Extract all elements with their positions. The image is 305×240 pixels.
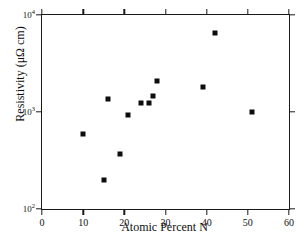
x-axis-tick xyxy=(82,209,83,215)
x-axis-tick xyxy=(206,209,207,215)
data-point xyxy=(147,101,152,106)
data-point xyxy=(155,78,160,83)
x-axis-tick xyxy=(41,209,42,215)
data-points-layer xyxy=(42,15,289,209)
x-axis-tick-top xyxy=(165,9,166,15)
data-point xyxy=(118,151,123,156)
y-axis-tick-label: 102 xyxy=(23,204,35,214)
data-point xyxy=(126,112,131,117)
y-axis-tick-right xyxy=(289,111,295,112)
x-axis-tick xyxy=(124,209,125,215)
data-point xyxy=(101,177,106,182)
data-point xyxy=(200,85,205,90)
x-axis-tick xyxy=(165,209,166,215)
y-axis-tick xyxy=(36,208,42,209)
data-point xyxy=(105,97,110,102)
x-axis-title: Atomic Percent N xyxy=(41,220,288,234)
y-axis-tick-right xyxy=(289,208,295,209)
data-point xyxy=(249,110,254,115)
y-axis-tick-right xyxy=(289,14,295,15)
plot-area: 0102030405060 102103104 xyxy=(41,14,290,210)
data-point xyxy=(212,31,217,36)
data-point xyxy=(81,131,86,136)
y-axis-title: Resistivity (μΩ cm) xyxy=(13,0,27,154)
x-axis-tick xyxy=(247,209,248,215)
y-axis-tick xyxy=(36,14,42,15)
x-axis-tick-top xyxy=(206,9,207,15)
x-axis-tick-top xyxy=(124,9,125,15)
x-axis-tick xyxy=(288,209,289,215)
x-axis-tick-top xyxy=(247,9,248,15)
scatter-chart-figure: 0102030405060 102103104 Atomic Percent N… xyxy=(0,0,305,240)
data-point xyxy=(151,94,156,99)
data-point xyxy=(138,100,143,105)
x-axis-tick-top xyxy=(82,9,83,15)
y-axis-tick xyxy=(36,111,42,112)
